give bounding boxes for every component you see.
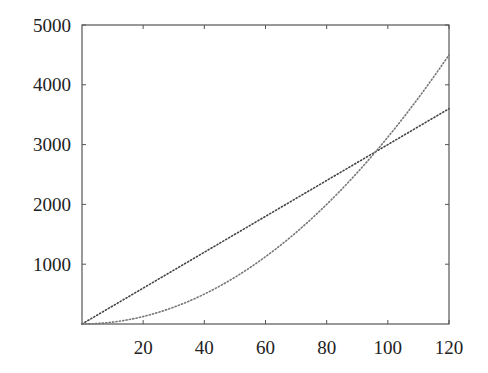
plot-border [82,25,449,324]
x-tick-label: 120 [435,337,464,358]
y-tick-label: 4000 [33,74,71,95]
plot-frame [82,25,449,324]
series-group [82,55,449,324]
x-tick-label: 100 [374,337,403,358]
series-linear-line [82,109,449,324]
line-chart: 10002000300040005000 20406080100120 [0,0,488,373]
y-tick-label: 1000 [33,254,71,275]
x-tick-label: 20 [134,337,153,358]
y-tick-label: 3000 [33,134,71,155]
x-tick-label: 80 [317,337,336,358]
y-tick-label: 2000 [33,194,71,215]
series-quadratic-line [82,55,449,324]
x-tick-label: 60 [256,337,275,358]
y-tick-label: 5000 [33,15,71,36]
x-axis: 20406080100120 [134,25,464,358]
x-tick-label: 40 [195,337,214,358]
